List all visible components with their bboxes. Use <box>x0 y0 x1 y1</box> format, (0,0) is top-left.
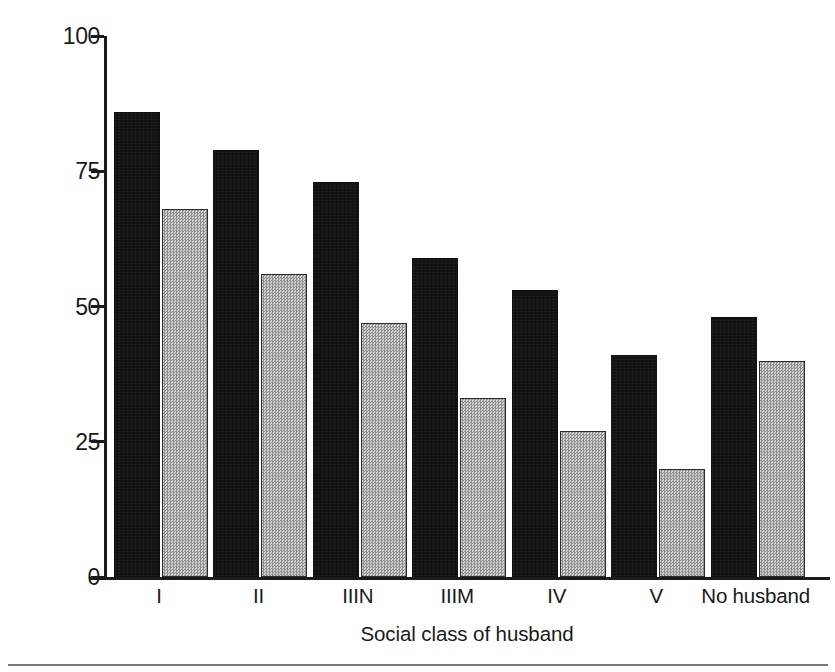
x-axis-tick-label: II <box>253 586 264 607</box>
footer-divider <box>8 664 828 666</box>
bar-dark[interactable] <box>611 355 657 577</box>
bar-light[interactable] <box>759 361 805 577</box>
y-axis-tick-mark <box>91 305 104 308</box>
bar-dark[interactable] <box>512 290 558 577</box>
x-axis-tick-label: IIIM <box>441 586 474 607</box>
bar-group <box>611 36 705 577</box>
x-axis-title: Social class of husband <box>104 622 830 646</box>
bar-light[interactable] <box>460 398 506 577</box>
bar-dark[interactable] <box>213 150 259 577</box>
bar-dark[interactable] <box>711 317 757 577</box>
bar-light[interactable] <box>560 431 606 577</box>
bar-group <box>114 36 208 577</box>
bar-light[interactable] <box>162 209 208 577</box>
y-axis-tick-mark <box>91 35 104 38</box>
x-axis-tick-label: V <box>649 586 662 607</box>
y-axis-tick-mark <box>91 170 104 173</box>
bar-light[interactable] <box>261 274 307 577</box>
bar-dark[interactable] <box>313 182 359 577</box>
x-axis-tick-label: IIIN <box>342 586 373 607</box>
x-axis-tick-label: I <box>156 586 162 607</box>
bar-series-group <box>104 36 830 577</box>
bar-group <box>313 36 407 577</box>
bar-group <box>711 36 805 577</box>
x-axis-tick-label: No husband <box>701 586 810 607</box>
y-tick-label-group: 0255075100 <box>40 0 100 672</box>
x-axis-line <box>90 577 830 580</box>
bar-group <box>412 36 506 577</box>
x-axis-tick-label-group: IIIIIINIIIMIVVNo husband <box>104 586 830 616</box>
chart-figure: Percentage breast-fed 0255075100 IIIIIIN… <box>0 0 835 672</box>
bar-dark[interactable] <box>412 258 458 577</box>
y-axis-tick-mark <box>91 576 104 579</box>
bar-dark[interactable] <box>114 112 160 577</box>
bar-group <box>512 36 606 577</box>
plot-area <box>104 36 830 577</box>
x-axis-tick-label: IV <box>547 586 566 607</box>
bar-group <box>213 36 307 577</box>
bar-light[interactable] <box>361 323 407 577</box>
y-axis-tick-mark <box>91 440 104 443</box>
bar-light[interactable] <box>659 469 705 577</box>
